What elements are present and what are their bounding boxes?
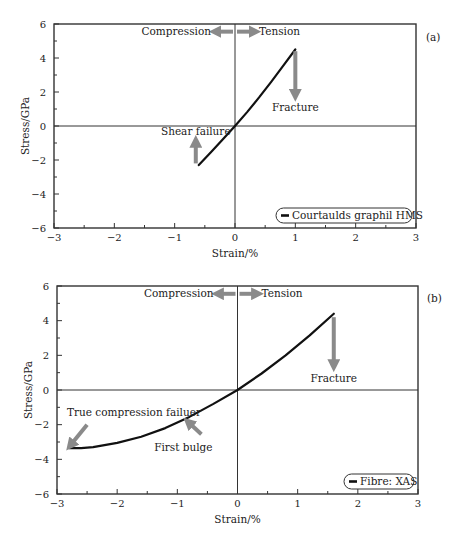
x-tick-label: 3 <box>415 498 421 509</box>
y-tick-label: 0 <box>43 385 49 396</box>
y-axis-title: Stress/GPa <box>22 361 34 419</box>
x-tick-label: −2 <box>107 232 122 243</box>
annotation-label: Tension <box>259 25 300 37</box>
x-tick-label: −1 <box>170 498 185 509</box>
y-tick-label: 4 <box>40 53 46 64</box>
x-tick-label: 0 <box>232 232 238 243</box>
legend: Fibre: XAS <box>344 474 417 489</box>
annotation-label: First bulge <box>154 441 212 453</box>
annotation-arrow-icon <box>70 425 87 446</box>
y-axis-title: Stress/GPa <box>19 97 31 155</box>
panel-label: (b) <box>427 292 442 304</box>
y-tick-label: 2 <box>40 87 46 98</box>
legend-entry: Courtaulds graphil HMS <box>292 209 423 221</box>
annotation-label: Fracture <box>272 101 319 113</box>
legend: Courtaulds graphil HMS <box>276 208 423 223</box>
annotation-label: Compression <box>144 287 214 299</box>
y-tick-label: −2 <box>34 419 49 430</box>
x-axis-title: Strain/% <box>212 247 258 259</box>
x-tick-label: 0 <box>234 498 240 509</box>
annotation-label: Compression <box>142 25 212 37</box>
y-tick-label: −2 <box>31 155 46 166</box>
annotation-label: Tension <box>262 287 303 299</box>
panel-label: (a) <box>426 31 440 43</box>
legend-entry: Fibre: XAS <box>360 475 417 487</box>
data-line <box>69 314 334 448</box>
y-tick-label: −6 <box>31 223 46 234</box>
y-tick-label: −4 <box>31 189 46 200</box>
annotation-label: Shear failure <box>161 125 231 137</box>
annotation-arrow-icon <box>188 422 201 434</box>
x-axis-title: Strain/% <box>214 513 260 525</box>
figure: −3−2−10123−6−4−20246Strain/%Stress/GPa(a… <box>0 0 459 544</box>
x-tick-label: −2 <box>110 498 125 509</box>
y-tick-label: 4 <box>43 315 49 326</box>
annotation-label: True compression failuer <box>67 406 202 418</box>
y-tick-label: 2 <box>43 350 49 361</box>
x-tick-label: 2 <box>352 232 358 243</box>
x-tick-label: 1 <box>292 232 298 243</box>
annotation-label: Fracture <box>310 372 357 384</box>
chart-panel-a: −3−2−10123−6−4−20246Strain/%Stress/GPa(a… <box>19 19 440 260</box>
x-tick-label: −3 <box>47 232 62 243</box>
y-tick-label: −4 <box>34 454 49 465</box>
x-tick-label: 2 <box>355 498 361 509</box>
x-tick-label: 1 <box>294 498 300 509</box>
y-tick-label: 6 <box>40 19 46 30</box>
y-tick-label: 6 <box>43 281 49 292</box>
x-tick-label: −1 <box>167 232 182 243</box>
x-tick-label: −3 <box>50 498 65 509</box>
chart-panel-b: −3−2−10123−6−4−20246Strain/%Stress/GPa(b… <box>22 281 442 526</box>
x-tick-label: 3 <box>413 232 419 243</box>
y-tick-label: −6 <box>34 489 49 500</box>
y-tick-label: 0 <box>40 121 46 132</box>
